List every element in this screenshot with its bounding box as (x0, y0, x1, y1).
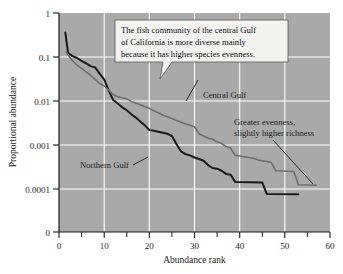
xtick-label-40: 40 (235, 241, 245, 251)
callout-line-2: of California is more diverse mainly (121, 37, 247, 47)
richness-note-line-2: slightly higher richness (234, 128, 315, 138)
xtick-label-50: 50 (280, 241, 290, 251)
northern-gulf-label: Northern Gulf (80, 160, 129, 170)
xtick-label-0: 0 (57, 241, 62, 251)
abundance-rank-chart: 1 0.1 0.01 0.001 0.0001 0 0 10 20 3 (0, 0, 343, 274)
ytick-label-0: 0 (46, 228, 51, 238)
x-axis-title: Abundance rank (163, 255, 226, 265)
ytick-label-0.001: 0.001 (30, 141, 50, 151)
xtick-label-10: 10 (100, 241, 110, 251)
figure-container: 1 0.1 0.01 0.001 0.0001 0 0 10 20 3 (0, 0, 343, 274)
xtick-label-60: 60 (326, 241, 336, 251)
ytick-label-0.1: 0.1 (39, 53, 50, 63)
richness-note-line-1: Greater evenness, (234, 117, 295, 127)
y-axis-title: Proportional abundance (8, 77, 18, 168)
central-gulf-label: Central Gulf (203, 90, 246, 100)
xtick-label-20: 20 (145, 241, 155, 251)
ytick-label-1: 1 (46, 9, 51, 19)
callout-line-3: because it has higher species evenness. (121, 49, 255, 59)
callout-line-1: The fish community of the central Gulf (121, 25, 256, 35)
ytick-label-0.0001: 0.0001 (25, 185, 50, 195)
ytick-label-0.01: 0.01 (34, 97, 50, 107)
xtick-label-30: 30 (190, 241, 200, 251)
